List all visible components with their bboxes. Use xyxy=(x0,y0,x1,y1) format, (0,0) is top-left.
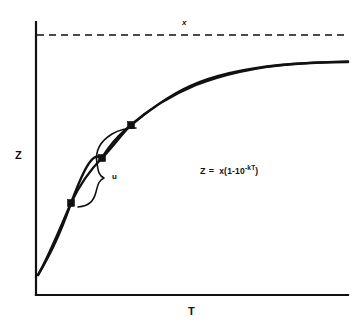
growth-curve-smooth xyxy=(38,62,348,276)
chart-canvas xyxy=(0,0,362,328)
equation-rhs-exponent: -kT xyxy=(245,164,255,171)
equation-annotation: Z=x(1-10-kT) xyxy=(200,167,258,176)
equation-rhs-suffix: ) xyxy=(255,166,258,176)
equation-rhs: x(1-10-kT) xyxy=(219,166,258,176)
brace-label: u xyxy=(112,173,117,181)
x-axis-label: T xyxy=(188,306,195,317)
growth-curve-path xyxy=(38,62,348,275)
figure-root: Z T x u Z=x(1-10-kT) xyxy=(0,0,362,328)
asymptote-label: x xyxy=(182,19,186,27)
equation-lhs: Z xyxy=(200,166,206,176)
data-marker-middle xyxy=(99,155,106,162)
y-axis-label: Z xyxy=(15,150,22,161)
equation-operator: = xyxy=(209,166,214,176)
data-marker-upper xyxy=(128,122,135,129)
equation-rhs-prefix: x(1-10 xyxy=(219,166,245,176)
data-marker-lower xyxy=(68,200,75,207)
